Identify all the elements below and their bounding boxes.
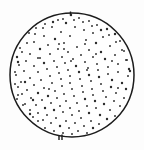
scatter-dot [125, 59, 127, 61]
scatter-dot [49, 53, 51, 55]
scatter-dot [65, 120, 67, 122]
scatter-dot [50, 122, 52, 124]
scatter-dot [79, 78, 81, 80]
scatter-dot [121, 49, 123, 51]
scatter-dot [104, 58, 106, 60]
scatter-dot [71, 88, 73, 90]
scatter-dot [19, 47, 21, 49]
scatter-dot [74, 26, 76, 28]
scatter-dot [62, 18, 64, 20]
scatter-dot [85, 39, 87, 41]
scatter-dot [102, 36, 104, 38]
scatter-dot [107, 73, 109, 75]
scatter-dot [14, 71, 16, 73]
scatter-dot [51, 82, 53, 84]
scatter-dot [54, 90, 56, 92]
scatter-dot [114, 33, 116, 35]
scatter-dot [97, 69, 99, 71]
scatter-dot [92, 127, 94, 129]
scatter-dot [65, 100, 67, 102]
scatter-dot [53, 130, 55, 132]
scatter-dot [102, 90, 104, 92]
scatter-dot [113, 100, 115, 102]
scatter-dot [43, 35, 45, 37]
scatter-dot [37, 92, 39, 94]
scatter-dot [32, 99, 34, 101]
scatter-dot [16, 56, 18, 58]
scatter-dot [16, 98, 18, 100]
scatter-dot [78, 17, 80, 19]
scatter-dot [77, 130, 79, 132]
scatter-dot [91, 25, 93, 27]
scatter-dot [84, 98, 86, 100]
scatter-dot [86, 69, 88, 71]
scatter-dot [37, 71, 39, 73]
scatter-dot [57, 19, 59, 21]
scatter-dot [46, 114, 48, 116]
scatter-dot [33, 41, 35, 43]
scatter-dot [42, 119, 44, 121]
scatter-dot [74, 122, 76, 124]
scatter-dot [67, 51, 69, 53]
scatter-dot [58, 43, 60, 45]
scatter-dot [84, 61, 86, 63]
circular-dish-outline [10, 13, 134, 137]
scatter-dot [42, 27, 44, 29]
scatter-dot [76, 46, 78, 48]
scatter-dot [56, 66, 58, 68]
scatter-dot [57, 48, 59, 50]
scatter-dot [40, 79, 42, 81]
scatter-dot [37, 112, 39, 114]
scatter-dot [96, 24, 98, 26]
scatter-dot [106, 118, 108, 120]
scatter-dot [26, 42, 28, 44]
scatter-dot [49, 75, 51, 77]
scatter-dot [105, 96, 107, 98]
scatter-dot [62, 132, 64, 134]
scatter-dot [103, 103, 105, 105]
scatter-dot [109, 109, 111, 111]
scatter-dot [51, 26, 53, 28]
scatter-dot [78, 110, 80, 112]
scatter-dot [119, 40, 121, 42]
scatter-dot [61, 85, 63, 87]
scatter-dot [60, 31, 62, 33]
scatter-dot [64, 62, 66, 64]
scatter-dot [18, 64, 20, 66]
scatter-dot [29, 53, 31, 55]
scatter-dot [46, 68, 48, 70]
scatter-dot [117, 87, 119, 89]
scatter-dot [39, 57, 41, 59]
scatter-dot [47, 95, 49, 97]
scatter-dot [111, 60, 113, 62]
scatter-dot [87, 67, 89, 69]
scatter-dot [108, 34, 110, 36]
scatter-dot [127, 75, 129, 77]
scatter-dot [62, 111, 64, 113]
scatter-dot [41, 99, 43, 101]
scatter-dot [96, 63, 98, 65]
scatter-dot [107, 66, 109, 68]
scatter-dot [109, 45, 111, 47]
scatter-dot [22, 104, 24, 106]
scatter-dot [98, 123, 100, 125]
scatter-dot [99, 114, 101, 116]
scatter-dot [73, 19, 75, 21]
scatter-dot [29, 109, 31, 111]
scatter-dot [80, 54, 82, 56]
scatter-dot [110, 86, 112, 88]
scatter-dot [20, 81, 22, 83]
scatter-dot [88, 49, 90, 51]
scatter-dot [82, 91, 84, 93]
scatter-dot [34, 33, 36, 35]
scatter-dot [90, 80, 92, 82]
scatter-dot [44, 107, 46, 109]
scatter-dot [63, 48, 65, 50]
scatter-dot [88, 74, 90, 76]
scatter-dot [90, 120, 92, 122]
scatter-dot [91, 88, 93, 90]
scatter-dot [53, 60, 55, 62]
scatter-dot [125, 88, 127, 90]
scatter-dot [33, 84, 35, 86]
scatter-dot [65, 22, 67, 24]
